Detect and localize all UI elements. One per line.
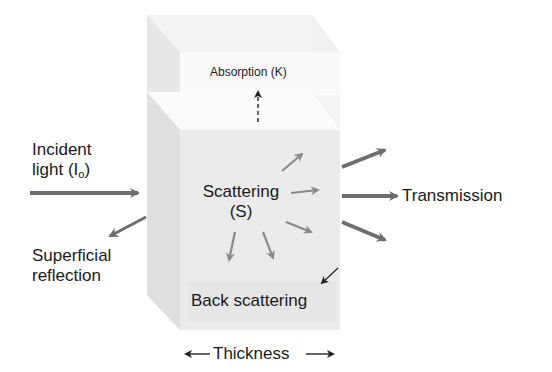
superficial-line2: reflection	[32, 266, 111, 286]
incident-label-line1: Incident	[32, 140, 92, 160]
scattering-line1: Scattering	[195, 182, 287, 202]
block-left-liquid	[147, 92, 180, 330]
incident-label-line2: light (Io)	[32, 160, 92, 181]
incident-label: Incident light (Io)	[32, 140, 92, 180]
transmission-arrows	[342, 150, 397, 240]
scattering-line2: (S)	[195, 202, 287, 222]
superficial-reflection-label: Superficial reflection	[32, 246, 111, 285]
thickness-label: Thickness	[213, 344, 290, 364]
superficial-line1: Superficial	[32, 246, 111, 266]
back-scattering-label: Back scattering	[191, 291, 307, 311]
block-liquid-surface	[147, 92, 340, 130]
absorption-label: Absorption (K)	[210, 66, 287, 80]
transmission-label: Transmission	[402, 186, 502, 206]
reflection-arrow	[110, 217, 146, 236]
scattering-label: Scattering (S)	[195, 182, 287, 221]
